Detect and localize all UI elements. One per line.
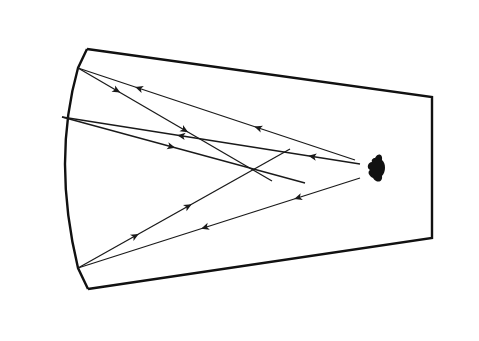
ray-top-incident-arrowhead-icon [253, 123, 263, 132]
ray-bottom-reflected-arrowhead-icon [183, 201, 194, 211]
mirror-ray-diagram [0, 0, 479, 341]
ray-mid-reflected-arrowhead-icon [167, 142, 177, 151]
concave-mirror [65, 49, 88, 289]
rays-group [62, 68, 360, 268]
ray-bottom-reflected-arrowhead-icon [130, 231, 141, 241]
ray-bottom-incident-arrowhead-icon [200, 223, 210, 232]
light-source-icon [368, 154, 385, 181]
ray-bottom-incident-arrowhead-icon [293, 193, 303, 202]
ray-bottom-reflected [78, 149, 290, 268]
ray-top-incident [78, 68, 355, 160]
ray-top-incident-arrowhead-icon [134, 84, 144, 93]
ray-top-reflected-arrowhead-icon [112, 85, 123, 95]
